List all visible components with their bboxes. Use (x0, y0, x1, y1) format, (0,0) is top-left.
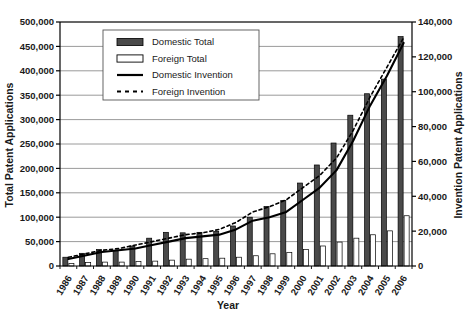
bar-domestic-2000 (298, 183, 303, 266)
bar-domestic-1992 (163, 232, 168, 266)
bar-domestic-2001 (314, 165, 319, 266)
bar-foreign-2000 (304, 249, 309, 266)
left-tick-label: 450,000 (20, 41, 54, 52)
legend-label-foreign-invention: Foreign Invention (152, 86, 225, 97)
bar-foreign-1999 (287, 252, 292, 266)
bar-domestic-1986 (63, 257, 68, 266)
right-axis-title: Invention Patent Applications (452, 71, 464, 218)
legend-swatch-foreign-total (117, 55, 143, 62)
left-tick-label: 400,000 (20, 65, 54, 76)
patent-applications-chart: 050,000100,000150,000200,000250,000300,0… (0, 0, 473, 314)
bar-domestic-1999 (281, 201, 286, 266)
bar-foreign-1998 (270, 254, 275, 266)
left-tick-label: 50,000 (25, 236, 54, 247)
bar-domestic-2003 (348, 115, 353, 266)
left-axis-title: Total Patent Applications (3, 82, 15, 207)
bar-domestic-2005 (381, 79, 386, 266)
bar-domestic-1995 (214, 231, 219, 266)
right-tick-label: 140,000 (418, 16, 452, 27)
x-axis-title: Year (217, 299, 239, 311)
legend-label-foreign-total: Foreign Total (152, 53, 207, 64)
left-tick-label: 350,000 (20, 90, 54, 101)
bar-domestic-2006 (398, 37, 403, 266)
right-tick-label: 20,000 (418, 226, 447, 237)
bar-domestic-1997 (247, 217, 252, 266)
bar-foreign-1997 (253, 256, 258, 266)
right-tick-label: 80,000 (418, 121, 447, 132)
bar-foreign-1993 (186, 259, 191, 266)
bar-foreign-2005 (387, 231, 392, 266)
left-tick-label: 100,000 (20, 212, 54, 223)
bar-domestic-1989 (113, 250, 118, 266)
bar-foreign-1996 (237, 257, 242, 266)
chart-canvas: 050,000100,000150,000200,000250,000300,0… (0, 0, 473, 314)
bar-domestic-2004 (365, 94, 370, 266)
legend-swatch-domestic-total (117, 38, 143, 45)
left-tick-label: 0 (49, 260, 54, 271)
right-tick-label: 40,000 (418, 191, 447, 202)
bar-foreign-1995 (220, 258, 225, 266)
left-tick-label: 500,000 (20, 16, 54, 27)
right-tick-label: 120,000 (418, 51, 452, 62)
legend-label-domestic-total: Domestic Total (152, 36, 214, 47)
bar-domestic-1998 (264, 206, 269, 266)
bar-foreign-1994 (203, 259, 208, 266)
chart-legend: Domestic TotalForeign TotalDomestic Inve… (103, 30, 259, 100)
bar-foreign-1990 (136, 262, 141, 266)
left-tick-label: 250,000 (20, 138, 54, 149)
right-tick-label: 0 (418, 260, 423, 271)
left-tick-label: 300,000 (20, 114, 54, 125)
bar-foreign-2004 (371, 235, 376, 266)
bar-foreign-2006 (404, 216, 409, 266)
bar-foreign-2002 (337, 242, 342, 266)
right-tick-label: 100,000 (418, 86, 452, 97)
bar-foreign-2003 (354, 238, 359, 266)
left-tick-label: 200,000 (20, 163, 54, 174)
bar-foreign-2001 (320, 246, 325, 266)
legend-label-domestic-invention: Domestic Invention (152, 69, 233, 80)
left-tick-label: 150,000 (20, 187, 54, 198)
right-tick-label: 60,000 (418, 156, 447, 167)
bar-foreign-1992 (169, 260, 174, 266)
bar-foreign-1991 (153, 261, 158, 266)
